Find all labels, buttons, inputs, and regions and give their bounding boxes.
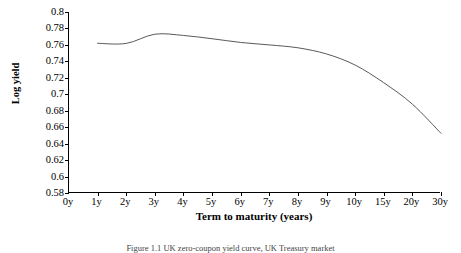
y-tick-mark <box>65 28 69 29</box>
y-tick-label: 0.74 <box>24 56 64 66</box>
y-tick-label: 0.8 <box>24 7 64 17</box>
y-tick-mark <box>65 193 69 194</box>
y-tick-label: 0.58 <box>24 188 64 198</box>
y-tick-label: 0.64 <box>24 139 64 149</box>
x-tick-label: 2y <box>120 196 131 208</box>
y-tick-mark <box>65 94 69 95</box>
y-tick-mark <box>65 12 69 13</box>
x-tick-label: 5y <box>206 196 217 208</box>
x-tick-label: 1y <box>91 196 102 208</box>
y-tick-mark <box>65 127 69 128</box>
y-tick-mark <box>65 111 69 112</box>
y-tick-label: 0.76 <box>24 40 64 50</box>
x-axis-title: Term to maturity (years) <box>68 210 440 222</box>
x-tick-label: 10y <box>346 196 362 208</box>
y-tick-mark <box>65 45 69 46</box>
y-tick-label: 0.7 <box>24 89 64 99</box>
y-tick-mark <box>65 61 69 62</box>
y-tick-label: 0.78 <box>24 23 64 33</box>
y-tick-mark <box>65 78 69 79</box>
y-tick-label: 0.6 <box>24 172 64 182</box>
y-axis-title: Log yield <box>10 39 21 129</box>
plot-area <box>68 12 440 193</box>
log-yield-curve-path <box>98 34 441 134</box>
y-tick-mark <box>65 144 69 145</box>
x-tick-label: 8y <box>292 196 303 208</box>
series-line-log-yield <box>69 12 441 193</box>
y-tick-label: 0.72 <box>24 73 64 83</box>
y-axis-tick-labels: 0.80.780.760.740.720.70.680.660.640.620.… <box>24 0 64 251</box>
x-tick-label: 30y <box>432 196 448 208</box>
x-tick-label: 20y <box>404 196 420 208</box>
x-tick-label: 3y <box>149 196 160 208</box>
x-tick-label: 0y <box>63 196 74 208</box>
x-tick-label: 7y <box>263 196 274 208</box>
x-tick-label: 6y <box>234 196 245 208</box>
x-tick-label: 15y <box>375 196 391 208</box>
y-tick-label: 0.66 <box>24 122 64 132</box>
figure-caption: Figure 1.1 UK zero-coupon yield curve, U… <box>0 243 461 253</box>
y-tick-label: 0.62 <box>24 155 64 165</box>
x-tick-label: 9y <box>320 196 331 208</box>
y-tick-label: 0.68 <box>24 106 64 116</box>
y-tick-mark <box>65 177 69 178</box>
y-tick-mark <box>65 160 69 161</box>
x-tick-label: 4y <box>177 196 188 208</box>
